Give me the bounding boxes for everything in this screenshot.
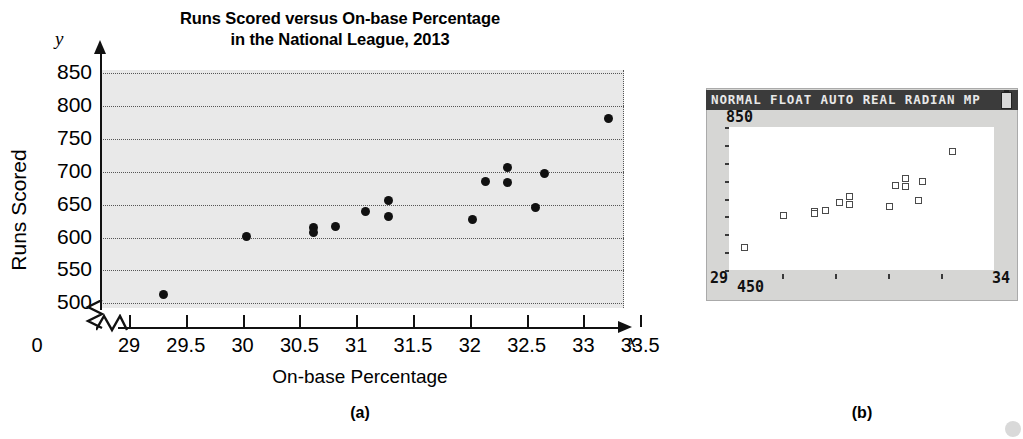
svg-text:Runs Scored: Runs Scored bbox=[7, 149, 30, 270]
data-point bbox=[540, 169, 549, 178]
calculator-x-tick bbox=[888, 274, 890, 279]
data-point bbox=[331, 222, 340, 231]
calculator-data-point bbox=[886, 203, 893, 210]
panel-a-caption: (a) bbox=[150, 404, 570, 422]
x-axis-tick bbox=[356, 315, 358, 327]
x-axis-tick-label: 33.5 bbox=[610, 334, 670, 357]
calculator-data-point bbox=[741, 244, 748, 251]
chart-title-line2: in the National League, 2013 bbox=[120, 29, 560, 50]
gridline bbox=[101, 270, 624, 271]
panel-a-scatter-figure: Runs Scored versus On-base Percentage in… bbox=[0, 0, 670, 439]
x-axis-tick-label: 32 bbox=[440, 334, 500, 357]
calculator-data-point bbox=[915, 197, 922, 204]
gridline bbox=[101, 205, 624, 206]
x-axis-tick bbox=[413, 315, 415, 327]
calculator-y-tick bbox=[725, 270, 729, 272]
panel-b-caption: (b) bbox=[706, 404, 1018, 422]
data-point bbox=[384, 196, 393, 205]
data-point bbox=[481, 177, 490, 186]
calculator-status-bar: NORMAL FLOAT AUTO REAL RADIAN MP bbox=[706, 90, 1018, 110]
x-axis-tick bbox=[186, 315, 188, 327]
x-axis-tick-label: 30.5 bbox=[269, 334, 329, 357]
y-axis-line bbox=[100, 52, 102, 310]
calculator-data-point bbox=[919, 178, 926, 185]
calculator-data-point bbox=[902, 175, 909, 182]
x-axis-tick bbox=[299, 315, 301, 327]
x-axis-break-icon bbox=[96, 314, 130, 336]
calculator-data-point bbox=[780, 212, 787, 219]
gridline bbox=[101, 73, 624, 74]
calculator-x-tick bbox=[941, 274, 943, 279]
data-point bbox=[468, 215, 477, 224]
calculator-ymax-label: 850 bbox=[726, 108, 753, 126]
x-axis-tick bbox=[243, 315, 245, 327]
figure-root: Runs Scored versus On-base Percentage in… bbox=[0, 0, 1023, 439]
data-point bbox=[361, 207, 370, 216]
x-axis-line bbox=[118, 327, 620, 329]
chart-title-line1: Runs Scored versus On-base Percentage bbox=[180, 9, 500, 27]
plot-area bbox=[101, 70, 624, 308]
chart-title: Runs Scored versus On-base Percentage in… bbox=[120, 8, 560, 49]
y-axis-variable-label: y bbox=[55, 28, 63, 50]
calculator-data-point bbox=[949, 148, 956, 155]
x-axis-tick-label: 30 bbox=[213, 334, 273, 357]
x-axis-tick-label: 33 bbox=[553, 334, 613, 357]
plot-right-border bbox=[623, 70, 624, 308]
calculator-data-point bbox=[811, 210, 818, 217]
x-axis-tick bbox=[640, 315, 642, 327]
calculator-x-tick bbox=[835, 274, 837, 279]
x-axis-tick-label: 31.5 bbox=[383, 334, 443, 357]
data-point bbox=[242, 232, 251, 241]
x-axis-tick-label: 31 bbox=[326, 334, 386, 357]
data-point bbox=[309, 228, 318, 237]
data-point bbox=[531, 203, 540, 212]
panel-b-calculator-figure: NORMAL FLOAT AUTO REAL RADIAN MP 850 450… bbox=[706, 88, 1018, 328]
calculator-data-point bbox=[822, 207, 829, 214]
x-axis-tick bbox=[583, 315, 585, 327]
data-point bbox=[604, 114, 613, 123]
y-axis-arrow-icon bbox=[94, 40, 106, 54]
x-axis-title: On-base Percentage bbox=[150, 366, 570, 388]
calculator-x-tick bbox=[782, 274, 784, 279]
calculator-data-point bbox=[836, 199, 843, 206]
data-point bbox=[384, 212, 393, 221]
x-axis-tick-label: 32.5 bbox=[497, 334, 557, 357]
x-axis-tick-label: 29.5 bbox=[156, 334, 216, 357]
x-axis-tick bbox=[527, 315, 529, 327]
calculator-data-point bbox=[846, 193, 853, 200]
data-point bbox=[503, 178, 512, 187]
gridline bbox=[101, 106, 624, 107]
gridline bbox=[101, 238, 624, 239]
data-point bbox=[503, 163, 512, 172]
calculator-ymin-label: 450 bbox=[737, 278, 764, 296]
gridline bbox=[101, 303, 624, 304]
page-corner-mark bbox=[1005, 421, 1021, 437]
calculator-data-point bbox=[902, 183, 909, 190]
x-axis-tick bbox=[470, 315, 472, 327]
battery-icon bbox=[1001, 92, 1012, 109]
calculator-screen: NORMAL FLOAT AUTO REAL RADIAN MP 850 450… bbox=[706, 88, 1018, 301]
x-axis-tick-label: 29 bbox=[99, 334, 159, 357]
data-point bbox=[159, 290, 168, 299]
calculator-data-point bbox=[846, 201, 853, 208]
calculator-data-point bbox=[892, 182, 899, 189]
y-axis-title: Runs Scored bbox=[6, 60, 46, 360]
x-axis-tick bbox=[129, 315, 131, 327]
x-axis-arrow-icon bbox=[618, 321, 632, 333]
gridline bbox=[101, 139, 624, 140]
calculator-xmax-label: 34 bbox=[992, 269, 1010, 287]
calculator-plot-area bbox=[729, 127, 994, 270]
origin-label: 0 bbox=[17, 334, 57, 357]
